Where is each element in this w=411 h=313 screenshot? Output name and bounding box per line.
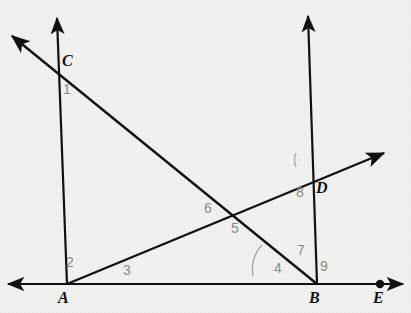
angle-label-4: 4 (274, 261, 282, 275)
ascending-ray-from-A-through-D (67, 153, 384, 284)
point-dots (376, 280, 384, 288)
angle-label-5: 5 (231, 221, 239, 235)
angle-label-2: 2 (66, 255, 74, 269)
angle-label-8: 8 (296, 185, 304, 199)
angle-label-7: 7 (297, 243, 305, 257)
angle-label-9: 9 (320, 259, 328, 273)
arc-at-D-angle-upper-left (295, 153, 297, 167)
point-label-D: D (316, 180, 328, 196)
angle-label-1: 1 (63, 82, 71, 96)
point-dot-E (376, 280, 384, 288)
geometry-canvas (0, 0, 411, 313)
arc-at-B-angle-4 (252, 245, 262, 276)
descending-transversal-through-C-and-B (12, 36, 317, 284)
point-label-A: A (58, 290, 69, 306)
point-label-E: E (373, 290, 384, 306)
angle-label-3: 3 (123, 263, 131, 277)
angle-label-6: 6 (204, 201, 212, 215)
point-label-C: C (62, 53, 73, 69)
geometry-figure: A B C D E 1 2 3 4 5 6 7 8 9 (0, 0, 411, 313)
angle-arcs (252, 153, 296, 276)
vertical-ray-at-B (308, 16, 317, 284)
point-label-B: B (309, 290, 320, 306)
